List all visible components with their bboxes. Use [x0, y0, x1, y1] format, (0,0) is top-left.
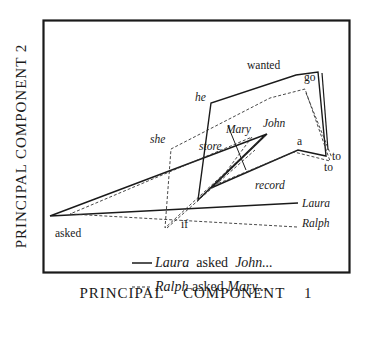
- label-store: store: [199, 141, 222, 153]
- legend-solid: Laura asked John...: [155, 255, 273, 271]
- legend-dashed: Ralph asked Mary...: [155, 279, 267, 295]
- label-he: he: [195, 92, 206, 104]
- label-she: she: [150, 134, 165, 146]
- label-ralph: Ralph: [302, 218, 329, 230]
- y-axis-label: PRINCIPAL COMPONENT 2: [6, 20, 36, 272]
- label-john: John: [263, 118, 285, 130]
- label-asked: asked: [55, 228, 81, 240]
- dashed-trajectory: [70, 89, 330, 228]
- label-go: go: [304, 72, 316, 84]
- label-wanted: wanted: [247, 60, 280, 72]
- plot-frame: [44, 21, 350, 273]
- label-to-1: to: [332, 151, 341, 163]
- label-to-2: to: [324, 162, 333, 174]
- label-a: a: [297, 136, 302, 148]
- label-laura: Laura: [302, 198, 330, 210]
- label-mary: Mary: [226, 124, 251, 136]
- label-if: if: [181, 219, 188, 231]
- label-record: record: [255, 180, 285, 192]
- solid-trajectory: [50, 72, 326, 216]
- dashed-if-segment: [167, 150, 255, 228]
